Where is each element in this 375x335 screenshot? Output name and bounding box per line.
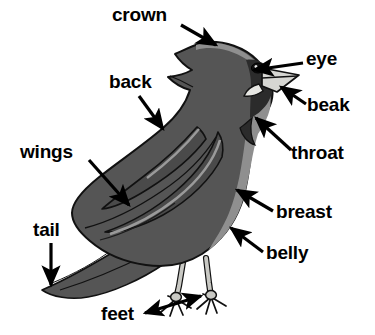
label-breast-text: breast — [276, 201, 333, 222]
label-back-text: back — [109, 71, 152, 92]
label-breast[interactable]: breast — [237, 190, 333, 222]
label-belly[interactable]: belly — [231, 228, 309, 263]
arrow-crown — [181, 25, 216, 45]
label-feet-text: feet — [101, 303, 135, 324]
bird-illustration — [42, 42, 299, 316]
label-tail[interactable]: tail — [33, 219, 60, 285]
label-beak[interactable]: beak — [281, 87, 350, 115]
label-beak-text: beak — [307, 94, 350, 115]
bird-feet — [161, 291, 226, 316]
label-back[interactable]: back — [109, 71, 163, 129]
label-throat-text: throat — [291, 142, 345, 163]
diagram-canvas: crown back eye beak throat wings — [0, 0, 375, 335]
label-crown-text: crown — [112, 4, 167, 25]
bird-anatomy-diagram: crown back eye beak throat wings — [0, 0, 375, 335]
label-tail-text: tail — [33, 219, 60, 240]
arrow-beak — [281, 87, 306, 104]
label-crown[interactable]: crown — [112, 4, 216, 45]
arrow-throat — [256, 118, 291, 150]
label-feet[interactable]: feet — [101, 296, 201, 324]
label-throat[interactable]: throat — [256, 118, 345, 163]
bird-body — [72, 42, 273, 266]
label-eye-text: eye — [306, 48, 337, 69]
label-wings-text: wings — [19, 141, 73, 162]
arrow-back — [139, 96, 163, 129]
label-eye[interactable]: eye — [254, 48, 337, 70]
arrow-belly — [231, 228, 263, 252]
label-belly-text: belly — [266, 242, 309, 263]
